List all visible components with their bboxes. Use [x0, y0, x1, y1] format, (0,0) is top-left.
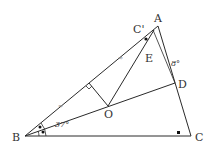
label-a: A [153, 12, 163, 25]
label-o: O [104, 108, 113, 121]
angle-dot-b-lower [42, 131, 45, 134]
right-angle-mark-f [86, 86, 92, 89]
bisector-bd [25, 83, 175, 136]
segment-oe [108, 30, 154, 106]
label-c-prime: C' [133, 23, 144, 36]
side-ab [25, 26, 158, 136]
angle-dot-b-upper [39, 126, 42, 129]
label-c: C [195, 131, 203, 144]
tick-mark-ab-lower: ≈ [58, 102, 63, 109]
angle-dot-c-prime [144, 37, 147, 40]
geometry-figure: ≈ ≈ A B C C' D E O 37° 8° [0, 0, 213, 151]
angle-arc-b-inner [38, 131, 39, 136]
label-d: D [178, 78, 187, 91]
label-e: E [145, 52, 153, 65]
label-b: B [12, 131, 20, 144]
angle-mark-c [177, 131, 180, 134]
tick-mark-ab-upper: ≈ [118, 54, 123, 61]
angle-label-37: 37° [55, 120, 69, 129]
segment-c-prime-d [153, 30, 175, 83]
angle-label-8: 8° [171, 59, 180, 68]
